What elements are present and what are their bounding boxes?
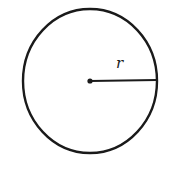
radius-label: r: [116, 54, 124, 72]
radius-line: [90, 80, 157, 81]
diagram-canvas: r: [0, 0, 178, 169]
center-point: [87, 78, 92, 83]
circle-diagram: r: [0, 0, 178, 169]
